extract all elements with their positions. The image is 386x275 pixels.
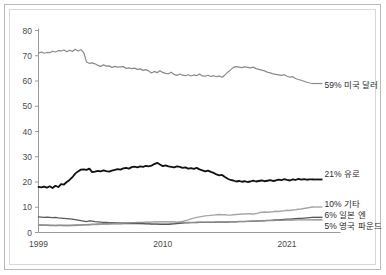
y-tick-label: 60 xyxy=(23,76,33,86)
line-chart-plot: 0102030405060708019992010202159% 미국 달러21… xyxy=(0,0,386,275)
series-end-label-3: 6% 일본 엔 xyxy=(325,210,366,220)
series-end-labels: 59% 미국 달러21% 유로10% 기타6% 일본 엔5% 영국 파운드 xyxy=(313,80,382,232)
y-tick-label: 30 xyxy=(23,152,33,162)
chart-axes xyxy=(39,29,341,233)
y-tick-label: 70 xyxy=(23,51,33,61)
y-tick-label: 50 xyxy=(23,101,33,111)
series-end-label-1: 21% 유로 xyxy=(325,169,360,179)
chart-series-group xyxy=(39,49,313,225)
y-tick-label: 10 xyxy=(23,202,33,212)
x-axis-ticks: 199920102021 xyxy=(29,239,297,249)
series-end-label-4: 5% 영국 파운드 xyxy=(325,221,382,231)
x-tick-label: 2010 xyxy=(153,239,172,249)
y-tick-label: 40 xyxy=(23,127,33,137)
x-tick-label: 1999 xyxy=(29,239,48,249)
series-end-label-0: 59% 미국 달러 xyxy=(325,80,379,90)
chart-screenshot: 0102030405060708019992010202159% 미국 달러21… xyxy=(0,0,386,275)
y-axis-ticks: 01020304050607080 xyxy=(23,26,39,238)
series-line-2 xyxy=(39,207,313,226)
y-tick-label: 0 xyxy=(27,228,32,238)
series-line-0 xyxy=(39,49,313,83)
x-tick-label: 2021 xyxy=(278,239,297,249)
y-tick-label: 80 xyxy=(23,26,33,36)
series-end-label-2: 10% 기타 xyxy=(325,199,360,209)
y-tick-label: 20 xyxy=(23,177,33,187)
chart-canvas: 0102030405060708019992010202159% 미국 달러21… xyxy=(0,0,386,275)
series-line-1 xyxy=(39,163,313,188)
